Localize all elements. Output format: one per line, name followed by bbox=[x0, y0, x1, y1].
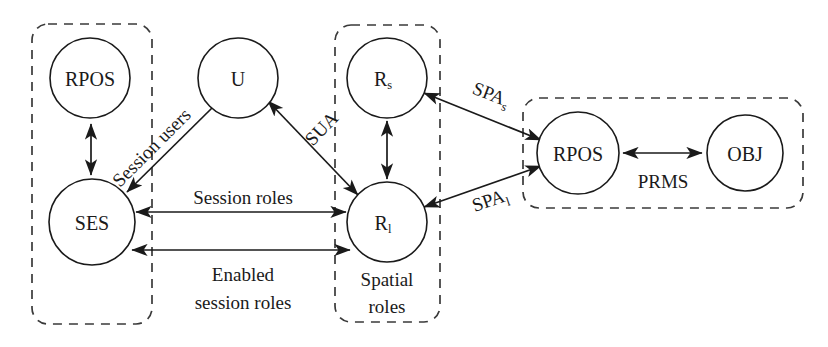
node-rpos-right-label: RPOS bbox=[553, 143, 603, 165]
node-u[interactable]: U bbox=[198, 38, 278, 118]
node-rpos-left[interactable]: RPOS bbox=[50, 38, 130, 118]
srbac-diagram-svg: Session users SUA Session roles Enabled … bbox=[0, 0, 828, 347]
diagram-canvas: Session users SUA Session roles Enabled … bbox=[0, 0, 828, 347]
node-rpos-left-label: RPOS bbox=[65, 68, 115, 90]
node-ses[interactable]: SES bbox=[49, 179, 135, 265]
edge-label-spa-l-sub: l bbox=[504, 194, 512, 209]
node-rs[interactable]: Rs bbox=[347, 38, 427, 118]
node-obj-label: OBJ bbox=[727, 143, 763, 165]
edge-label-enabled-line2: session roles bbox=[195, 292, 292, 313]
edge-label-session-users: Session users bbox=[108, 104, 195, 191]
edge-label-sua: SUA bbox=[301, 107, 343, 149]
node-rs-label-sub: s bbox=[387, 78, 392, 92]
node-ses-label: SES bbox=[75, 212, 109, 234]
node-rs-label-base: R bbox=[374, 68, 388, 90]
edge-label-enabled-line1: Enabled bbox=[212, 264, 275, 285]
caption-spatial-line1: Spatial bbox=[361, 269, 414, 290]
node-obj[interactable]: OBJ bbox=[707, 115, 783, 191]
edge-label-spa-s: SPAs bbox=[468, 77, 513, 114]
node-rl[interactable]: Rl bbox=[347, 182, 427, 262]
node-rl-label-base: R bbox=[375, 212, 389, 234]
node-rl-label-sub: l bbox=[388, 222, 392, 236]
node-rpos-right[interactable]: RPOS bbox=[537, 112, 619, 194]
node-u-label: U bbox=[231, 68, 246, 90]
caption-spatial-line2: roles bbox=[369, 296, 406, 317]
edge-label-session-roles: Session roles bbox=[193, 187, 293, 208]
edge-label-prms: PRMS bbox=[638, 171, 689, 192]
